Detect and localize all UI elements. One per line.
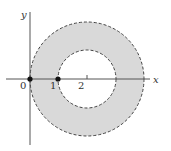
annulus-diagram: 0 1 2 x y <box>0 0 171 151</box>
tick-label-2: 2 <box>78 80 84 91</box>
tick-label-1: 1 <box>50 80 56 91</box>
point-origin <box>27 76 32 81</box>
y-axis-label: y <box>20 9 27 20</box>
tick-label-0: 0 <box>20 80 26 91</box>
x-axis-label: x <box>153 74 159 85</box>
